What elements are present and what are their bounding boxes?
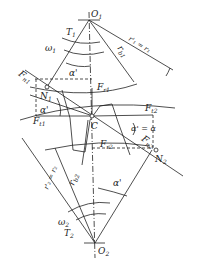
- point-c: [90, 114, 94, 118]
- w2-arc: [68, 202, 110, 212]
- label-n1: N1: [39, 91, 52, 102]
- label-alpha-bottom: α': [113, 178, 122, 188]
- label-ft2: Ft2: [144, 103, 158, 114]
- label-fn1: Fn1: [15, 68, 34, 86]
- label-o2: O2: [98, 246, 109, 257]
- gear-force-diagram: O1 T1 ω1 α' r'₁ = r₁ rb1 Fn1 N1 Fr1 α' F…: [0, 0, 201, 271]
- label-ft1: Ft1: [32, 116, 45, 127]
- label-omega1: ω1: [45, 43, 56, 54]
- label-fr1: Fr1: [96, 82, 110, 93]
- alpha-arc-bottom: [98, 188, 127, 196]
- label-omega2: ω2: [58, 217, 69, 228]
- r1-line: [89, 20, 173, 70]
- label-alpha-top: α': [69, 68, 78, 78]
- rb2-line: [55, 148, 95, 243]
- label-t2: T2: [64, 228, 74, 239]
- label-rb1: rb1: [115, 43, 131, 59]
- t2-arc: [76, 214, 106, 220]
- point-n1: [45, 85, 49, 89]
- t1-arc: [62, 38, 100, 43]
- alpha-arc-left: [57, 98, 61, 116]
- label-r2: r'₂ = r₂: [42, 165, 59, 191]
- center-line: [89, 12, 95, 258]
- alpha-arc-top: [66, 63, 91, 67]
- tooth-flank: [82, 120, 88, 165]
- pitch-arc-1: [166, 68, 170, 76]
- label-c: C: [91, 121, 98, 131]
- point-n2: [154, 148, 158, 152]
- label-alpha-left: α': [40, 105, 49, 115]
- ft2-arrow: [92, 115, 153, 116]
- base-circle-2: [45, 143, 150, 150]
- label-alpha-eq: α' = α: [131, 124, 156, 133]
- label-t1: T1: [66, 27, 76, 38]
- rb1-line: [89, 20, 134, 82]
- o2-n2-line: [95, 150, 152, 243]
- label-o1: O1: [91, 9, 102, 20]
- label-n2: N2: [154, 154, 167, 165]
- label-fr2: Fr2: [99, 139, 113, 150]
